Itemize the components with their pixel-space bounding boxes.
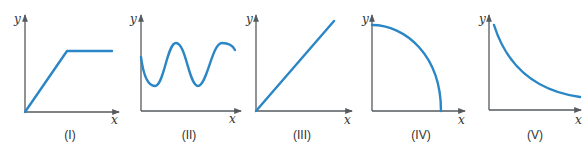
- panel-caption: (II): [182, 128, 197, 142]
- sine-wave-curve: [141, 43, 235, 86]
- linear-curve: [256, 21, 334, 111]
- panel-ii: y x (II): [129, 12, 241, 142]
- panel-iii: y x (III): [245, 12, 352, 142]
- y-axis-label: y: [245, 12, 253, 26]
- x-axis-label: x: [111, 113, 118, 127]
- panel-caption: (V): [527, 128, 543, 142]
- y-axis-label: y: [13, 12, 21, 26]
- panel-v: y x (V): [478, 12, 582, 142]
- quarter-circle-curve: [372, 25, 441, 111]
- y-axis-label: y: [129, 12, 137, 26]
- panel-caption: (IV): [411, 128, 430, 142]
- graphs-figure: y x (I) y x (II) y x (III) y x (IV) y x …: [0, 0, 586, 150]
- panel-caption: (I): [64, 128, 75, 142]
- x-axis-label: x: [344, 113, 351, 127]
- panel-caption: (III): [293, 128, 311, 142]
- x-axis-label: x: [229, 112, 236, 126]
- panel-i: y x (I): [13, 12, 119, 142]
- decay-curve: [494, 25, 580, 97]
- x-axis-label: x: [575, 113, 582, 127]
- y-axis-label: y: [478, 12, 486, 26]
- x-axis-label: x: [458, 113, 465, 127]
- panel-iv: y x (IV): [361, 12, 465, 142]
- y-axis-label: y: [361, 12, 369, 26]
- ramp-plateau-curve: [25, 51, 112, 112]
